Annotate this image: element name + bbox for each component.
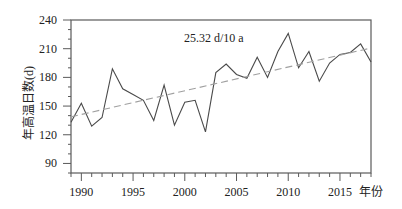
x-tick-label: 2000 [173,185,197,199]
y-axis-ticks: 90120150180210240 [39,13,71,173]
y-tick-label: 180 [39,70,57,84]
x-tick-label: 2015 [328,185,352,199]
y-tick-label: 150 [39,99,57,113]
series-layer [71,33,371,131]
y-axis-label: 年高温日数(d) [21,66,36,140]
linear-trend-line [71,48,371,117]
x-tick-label: 1990 [69,185,93,199]
y-tick-label: 120 [39,128,57,142]
annual-hot-days-line [71,33,371,131]
x-tick-label: 1995 [121,185,145,199]
x-axis-label: 年份 [359,185,383,199]
x-tick-label: 2005 [225,185,249,199]
y-tick-label: 210 [39,42,57,56]
x-tick-label: 2010 [276,185,300,199]
x-axis-ticks: 199019952000200520102015 [69,173,371,199]
trend-rate-annotation: 25.32 d/10 a [184,31,244,45]
y-tick-label: 90 [45,156,57,170]
y-tick-label: 240 [39,13,57,27]
line-chart: 90120150180210240 1990199520002005201020… [0,0,402,209]
